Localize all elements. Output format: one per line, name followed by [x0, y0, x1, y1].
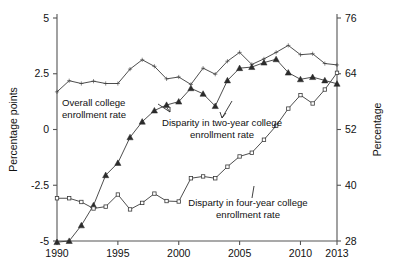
series-layer — [54, 43, 340, 244]
data-point-marker — [188, 85, 194, 91]
data-point-marker — [323, 88, 326, 91]
data-point-marker — [335, 71, 338, 74]
data-point-marker — [79, 81, 83, 85]
data-point-marker — [200, 91, 206, 97]
annotation-leader-1 — [220, 101, 232, 118]
y-left-tick-label: -5 — [40, 235, 49, 247]
x-tick-label: 2000 — [167, 247, 191, 259]
x-tick-label: 2010 — [289, 247, 313, 259]
series-2 — [55, 71, 338, 211]
data-point-marker — [115, 160, 121, 166]
series-1 — [54, 56, 340, 244]
annot-overall: Overall collegeenrollment rate — [62, 97, 126, 120]
data-point-marker — [78, 222, 84, 228]
y-right-tick-label: 40 — [345, 179, 357, 191]
data-point-marker — [165, 199, 168, 202]
data-point-marker — [214, 177, 217, 180]
data-point-marker — [104, 205, 107, 208]
y-right-tick-label: 64 — [345, 67, 357, 79]
y-left-tick-label: 2.5 — [34, 67, 49, 79]
annot-four-year-line-1: enrollment rate — [216, 209, 280, 220]
data-point-marker — [310, 74, 316, 80]
annot-overall-line-0: Overall college — [62, 97, 125, 108]
x-tick-label: 2013 — [325, 247, 349, 259]
y-left-tick-label: 0 — [43, 123, 49, 135]
series-0 — [55, 43, 339, 94]
y-left-tick-label: -2.5 — [31, 179, 49, 191]
data-point-marker — [67, 197, 70, 200]
x-tick-label: 2005 — [228, 247, 252, 259]
data-point-marker — [274, 50, 278, 54]
data-point-marker — [189, 177, 192, 180]
series-line-1 — [57, 59, 337, 242]
data-point-marker — [153, 192, 156, 195]
data-point-marker — [299, 93, 302, 96]
data-point-marker — [273, 56, 279, 62]
annot-four-year: Disparty in four-year collegeenrollment … — [188, 197, 307, 220]
data-point-marker — [238, 155, 241, 158]
data-point-marker — [311, 102, 314, 105]
data-point-marker — [128, 208, 131, 211]
data-point-marker — [201, 175, 204, 178]
data-point-marker — [104, 81, 108, 85]
data-point-marker — [249, 64, 255, 70]
y-right-tick-label: 52 — [345, 123, 357, 135]
annot-overall-line-1: enrollment rate — [62, 109, 126, 120]
data-point-marker — [250, 151, 253, 154]
data-point-marker — [141, 201, 144, 204]
data-point-marker — [335, 63, 339, 67]
annot-two-year: Disparity in two-year collegeenrollment … — [162, 117, 282, 140]
y-axis-right-title: Percentage — [371, 102, 383, 156]
data-point-marker — [177, 75, 181, 79]
data-point-marker — [151, 107, 157, 113]
data-point-marker — [116, 193, 119, 196]
y-right-tick-label: 28 — [345, 235, 357, 247]
annotations-layer: Overall collegeenrollment rateDisparity … — [62, 97, 308, 220]
data-point-marker — [55, 197, 58, 200]
data-point-marker — [287, 107, 290, 110]
x-tick-label: 1995 — [106, 247, 130, 259]
x-tick-label: 1990 — [45, 247, 69, 259]
data-point-marker — [91, 79, 95, 83]
annot-two-year-line-0: Disparity in two-year college — [162, 117, 282, 128]
y-left-tick-label: 5 — [43, 12, 49, 24]
data-point-marker — [80, 200, 83, 203]
data-point-marker — [177, 200, 180, 203]
annot-four-year-line-0: Disparty in four-year college — [188, 197, 307, 208]
y-right-tick-label: 76 — [345, 12, 357, 24]
series-line-0 — [57, 45, 337, 91]
data-point-marker — [226, 165, 229, 168]
line-chart: 52.50-2.5-576645240281990199520002005201… — [0, 0, 396, 280]
data-point-marker — [92, 207, 95, 210]
series-line-2 — [57, 73, 337, 210]
chart-figure: 52.50-2.5-576645240281990199520002005201… — [0, 0, 396, 280]
annot-two-year-line-1: enrollment rate — [190, 129, 254, 140]
y-axis-left-title: Percentage points — [7, 87, 19, 172]
leader-lines-layer — [158, 101, 254, 198]
data-point-marker — [262, 138, 265, 141]
